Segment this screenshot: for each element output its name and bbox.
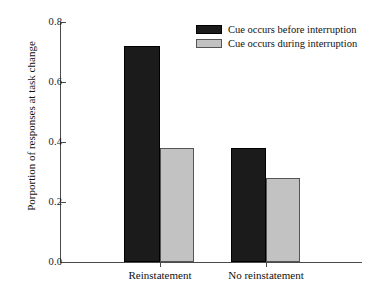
y-tick-label-3: 0.6 (22, 77, 62, 87)
y-tick-label-1: 0.2 (22, 197, 62, 207)
y-tick-label-4: 0.8 (22, 17, 62, 27)
legend-label-before: Cue occurs before interruption (228, 24, 357, 35)
x-tick-label-no-reinstatement: No reinstatement (210, 269, 322, 282)
y-tick-label-2: 0.4 (22, 137, 62, 147)
bar-reinstatement-before (124, 46, 160, 262)
bar-chart: Porportion of responses at task change 0… (0, 0, 384, 293)
bar-no-reinstatement-during (266, 178, 300, 262)
legend-item-during: Cue occurs during interruption (196, 38, 357, 49)
x-tick-mark-1 (266, 262, 267, 267)
x-tick-label-reinstatement: Reinstatement (110, 269, 210, 282)
x-axis-line (60, 262, 362, 263)
light-swatch-icon (196, 39, 222, 48)
legend-label-during: Cue occurs during interruption (228, 38, 357, 49)
bar-reinstatement-during (160, 148, 194, 262)
dark-swatch-icon (196, 25, 222, 34)
x-tick-mark-0 (160, 262, 161, 267)
legend-item-before: Cue occurs before interruption (196, 24, 357, 35)
legend: Cue occurs before interruption Cue occur… (196, 24, 357, 49)
bar-no-reinstatement-before (231, 148, 266, 262)
y-tick-label-0: 0.0 (22, 257, 62, 267)
